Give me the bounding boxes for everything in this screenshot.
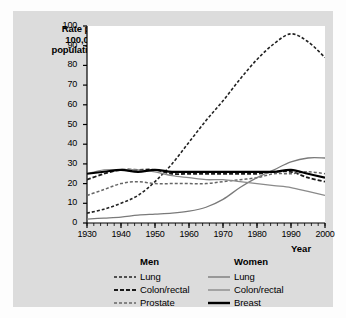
x-tick-label: 1980 [242, 229, 272, 239]
legend-swatch-women-lung [208, 271, 230, 282]
legend-label-men-colon-rectal: Colon/rectal [140, 284, 190, 295]
x-tick-label: 1990 [276, 229, 306, 239]
y-tick-label: 60 [55, 99, 77, 109]
legend-header-women: Women [234, 256, 284, 267]
y-tick-label: 0 [55, 217, 77, 227]
x-tick-label: 1970 [208, 229, 238, 239]
x-tick-label: 1960 [174, 229, 204, 239]
legend-swatch-women-breast [208, 297, 230, 308]
x-tick-label: 1950 [140, 229, 170, 239]
y-tick-label: 10 [55, 197, 77, 207]
legend-item-men-colon-rectal: Colon/rectal [114, 283, 190, 296]
legend-item-women-lung: Lung [208, 270, 284, 283]
legend-swatch-men-prostate [114, 297, 136, 308]
legend-column-men: Men Lung Colon/rectal [114, 256, 190, 309]
legend-label-women-colon-rectal: Colon/rectal [234, 284, 284, 295]
legend-label-men-prostate: Prostate [140, 297, 175, 308]
legend-item-men-prostate: Prostate [114, 296, 190, 309]
x-tick-label: 2000 [310, 229, 340, 239]
legend-swatch-women-colon-rectal [208, 284, 230, 295]
y-tick-label: 70 [55, 79, 77, 89]
chart-panel: Rate per 100,000 population Year Men Lun… [13, 11, 333, 307]
y-tick-label: 40 [55, 138, 77, 148]
legend-header-men: Men [140, 256, 190, 267]
chart-legend: Men Lung Colon/rectal [26, 256, 346, 318]
x-axis-title: Year [291, 243, 311, 254]
legend-item-women-breast: Breast [208, 296, 284, 309]
legend-label-women-lung: Lung [234, 271, 255, 282]
figure-container: Rate per 100,000 population Year Men Lun… [0, 0, 346, 318]
x-tick-label: 1940 [106, 229, 136, 239]
y-tick-label: 20 [55, 178, 77, 188]
y-tick-label: 100 [55, 20, 77, 30]
x-tick-label: 1930 [72, 229, 102, 239]
y-tick-label: 90 [55, 40, 77, 50]
legend-label-women-breast: Breast [234, 297, 261, 308]
y-tick-label: 80 [55, 59, 77, 69]
legend-swatch-men-colon-rectal [114, 284, 136, 295]
legend-swatch-men-lung [114, 271, 136, 282]
legend-column-women: Women Lung Colon/rectal [208, 256, 284, 309]
y-tick-label: 50 [55, 119, 77, 129]
legend-label-men-lung: Lung [140, 271, 161, 282]
legend-item-women-colon-rectal: Colon/rectal [208, 283, 284, 296]
y-tick-label: 30 [55, 158, 77, 168]
legend-item-men-lung: Lung [114, 270, 190, 283]
